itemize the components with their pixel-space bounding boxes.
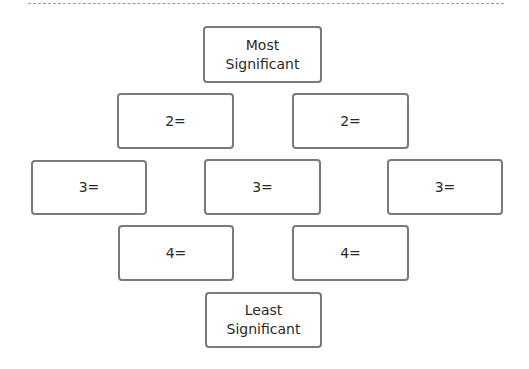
box-label: 4= xyxy=(340,244,361,263)
box-label: 4= xyxy=(166,244,187,263)
box-rank-3-middle: 3= xyxy=(204,159,321,215)
box-rank-3-left: 3= xyxy=(31,160,147,215)
dashed-divider xyxy=(28,3,504,4)
box-label: 3= xyxy=(79,178,100,197)
box-rank-3-right: 3= xyxy=(387,159,503,215)
box-label: 2= xyxy=(165,112,186,131)
box-most-significant: Most Significant xyxy=(203,26,322,83)
box-label: Most Significant xyxy=(226,36,300,74)
box-least-significant: Least Significant xyxy=(205,292,322,348)
box-label: 3= xyxy=(252,178,273,197)
box-rank-2-right: 2= xyxy=(292,93,409,149)
box-rank-4-left: 4= xyxy=(118,225,234,281)
box-rank-4-right: 4= xyxy=(292,225,409,281)
box-rank-2-left: 2= xyxy=(117,93,234,149)
box-label: 2= xyxy=(340,112,361,131)
box-label: Least Significant xyxy=(227,301,301,339)
box-label: 3= xyxy=(435,178,456,197)
